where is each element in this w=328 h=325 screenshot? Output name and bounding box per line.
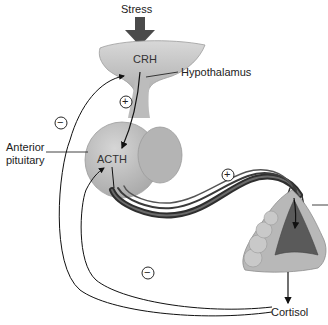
posterior-pituitary-shape [138, 127, 182, 183]
cortisol-label: Cortisol [271, 306, 308, 318]
anterior-pituitary-label-line2: pituitary [6, 154, 45, 166]
minus-sign-hypothalamus: − [57, 116, 63, 128]
plus-sign-acth: + [224, 168, 230, 180]
adrenal-gland [243, 190, 326, 272]
anterior-pituitary-label-line1: Anterior [6, 141, 45, 153]
acth-label: ACTH [97, 153, 127, 165]
stress-label: Stress [121, 3, 152, 15]
feedback-loop-hypothalamus [59, 76, 272, 316]
hypothalamus-label: Hypothalamus [181, 66, 251, 78]
hpa-axis-diagram [0, 0, 328, 325]
plus-sign-crh: + [122, 95, 128, 107]
minus-sign-cortisol: − [144, 266, 150, 278]
crh-label: CRH [133, 53, 157, 65]
